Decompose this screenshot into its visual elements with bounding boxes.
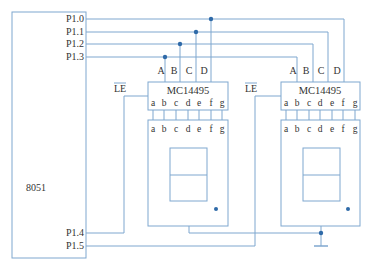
out-b: b (162, 98, 167, 108)
port-p1-5: P1.5 (66, 240, 84, 251)
decimal-point (214, 207, 218, 211)
input-a-label: A (157, 65, 165, 76)
out-g: g (220, 98, 225, 108)
input-d-label: D (200, 65, 207, 76)
display-left: a b c d e f g (148, 120, 228, 226)
junction-p1-3 (163, 55, 167, 59)
junction-p1-0 (209, 17, 213, 21)
input-a-label: A (289, 65, 297, 76)
seg-d: d (186, 124, 191, 134)
ground-network (189, 226, 328, 246)
seg-e: e (330, 124, 334, 134)
mcu-8051: 8051 P1.0 P1.1 P1.2 P1.3 P1.4 P1.5 (12, 12, 86, 258)
seg-g: g (353, 124, 358, 134)
port-p1-0: P1.0 (66, 13, 84, 24)
seg-c: c (174, 124, 178, 134)
input-c-label: C (318, 65, 325, 76)
input-d-label: D (333, 65, 340, 76)
decoder-label: MC14495 (299, 85, 342, 96)
port-p1-1: P1.1 (66, 26, 84, 37)
input-b-label: B (171, 65, 178, 76)
segment-lines (286, 110, 355, 120)
port-p1-2: P1.2 (66, 38, 84, 49)
wire-p1-2 (86, 44, 313, 82)
decoder-label: MC14495 (167, 85, 210, 96)
decoder-right: A B C D MC14495 LE a b c d e f g (245, 65, 360, 120)
le-label: LE (245, 83, 257, 94)
junction-p1-2 (178, 42, 182, 46)
circuit-diagram: 8051 P1.0 P1.1 P1.2 P1.3 P1.4 P1.5 A B C… (0, 0, 371, 273)
seg-d: d (318, 124, 323, 134)
out-d: d (318, 98, 323, 108)
wire-p1-4-le-left (86, 96, 148, 233)
out-e: e (330, 98, 334, 108)
out-b: b (295, 98, 300, 108)
out-g: g (353, 98, 358, 108)
mcu-label: 8051 (26, 182, 46, 193)
input-c-label: C (186, 65, 193, 76)
port-p1-3: P1.3 (66, 51, 84, 62)
seg-g: g (220, 124, 225, 134)
display-right: a b c d e f g (281, 120, 360, 226)
seg-b: b (295, 124, 300, 134)
port-p1-4: P1.4 (66, 227, 84, 238)
out-c: c (307, 98, 311, 108)
le-label: LE (114, 83, 126, 94)
out-e: e (197, 98, 201, 108)
out-d: d (186, 98, 191, 108)
seg-e: e (197, 124, 201, 134)
junction-p1-1 (194, 30, 198, 34)
seg-c: c (307, 124, 311, 134)
decimal-point (346, 207, 350, 211)
out-c: c (174, 98, 178, 108)
junction-ground (319, 231, 323, 235)
segment-lines (153, 110, 222, 120)
input-b-label: B (303, 65, 310, 76)
seg-b: b (162, 124, 167, 134)
